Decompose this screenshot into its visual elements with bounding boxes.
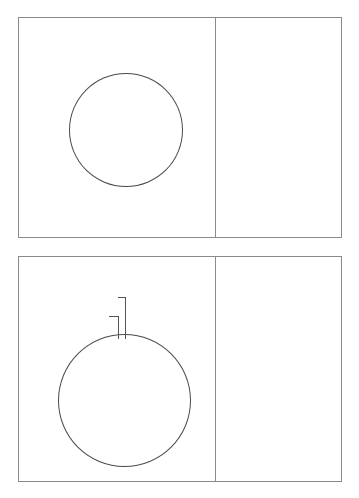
legend-bottom xyxy=(216,257,341,481)
legend-top xyxy=(216,18,341,237)
chart-panel-top xyxy=(18,17,342,238)
figure-page xyxy=(0,0,359,498)
pie-chart-bottom xyxy=(59,335,190,466)
pie-slices-bottom xyxy=(59,335,190,466)
pie-plot-area-bottom xyxy=(19,257,216,481)
leader-line-1pct-horizontal xyxy=(118,297,126,298)
pie-slices-top xyxy=(70,74,182,186)
leader-line-1pct-vertical xyxy=(125,297,126,339)
leader-line-2pct-vertical xyxy=(118,316,119,339)
pie-chart-top xyxy=(70,74,182,186)
pie-plot-area-top xyxy=(19,18,216,237)
chart-panel-bottom xyxy=(18,256,342,482)
leader-line-2pct-horizontal xyxy=(109,316,119,317)
